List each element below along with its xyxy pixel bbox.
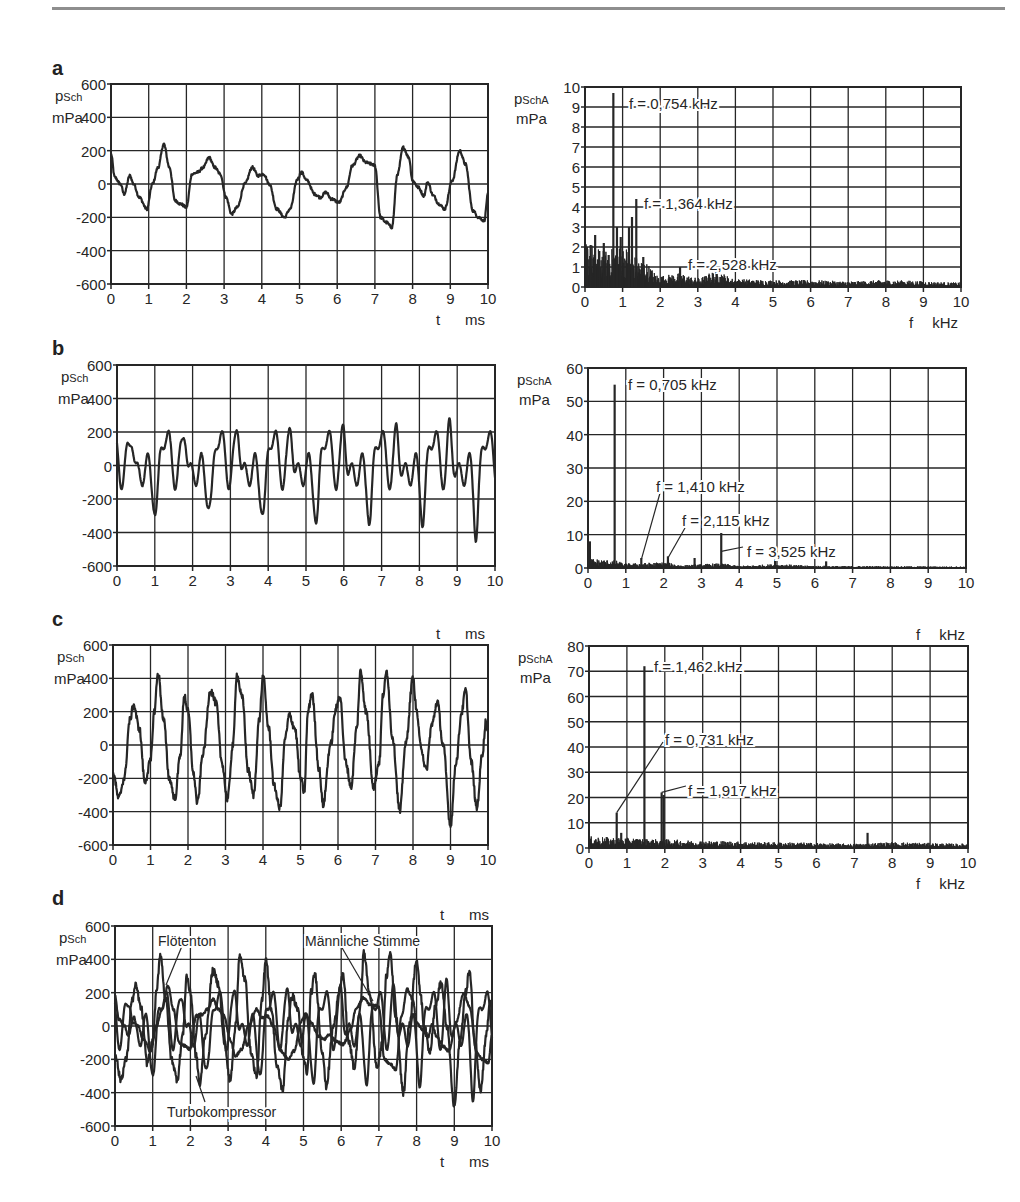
y-tick-label: -600 — [76, 276, 106, 293]
y-tick-label: 60 — [566, 360, 583, 377]
y-tick-label: 400 — [81, 109, 106, 126]
x-tick-label: 2 — [188, 572, 196, 589]
y-tick-label: 200 — [81, 143, 106, 160]
y-tick-label: 0 — [576, 840, 584, 857]
y-tick-label: 80 — [567, 638, 584, 655]
y-tick-label: 30 — [566, 460, 583, 477]
y-tick-label: 400 — [83, 670, 108, 687]
x-tick-label: 6 — [334, 851, 342, 868]
x-tick-label: 4 — [258, 290, 266, 307]
x-axis-label: t — [436, 311, 441, 328]
y-axis-label: pSchA — [517, 371, 552, 388]
peak-annotation: f = 1,410 kHz — [656, 478, 745, 495]
x-tick-label: 5 — [295, 290, 303, 307]
y-axis-label: pSchA — [514, 90, 549, 107]
x-tick-label: 8 — [882, 293, 890, 310]
x-tick-label: 3 — [221, 851, 229, 868]
peak-annotation: f = 0,754 kHz — [629, 95, 718, 112]
x-tick-label: 5 — [773, 574, 781, 591]
x-tick-label: 2 — [186, 1132, 194, 1149]
y-tick-label: -400 — [78, 804, 108, 821]
x-tick-label: 6 — [806, 293, 814, 310]
x-tick-label: 3 — [224, 1132, 232, 1149]
x-tick-label: 0 — [109, 851, 117, 868]
x-tick-label: 8 — [412, 1132, 420, 1149]
y-tick-label: 10 — [563, 79, 580, 96]
x-tick-label: 9 — [446, 290, 454, 307]
y-tick-label: 9 — [572, 99, 580, 116]
chart-c-time: 0123456789106004002000-200-400-600pSchmP… — [54, 625, 496, 868]
y-tick-label: -200 — [78, 770, 108, 787]
y-tick-label: -400 — [80, 1085, 110, 1102]
x-tick-label: 1 — [618, 293, 626, 310]
x-tick-label: 0 — [111, 1132, 119, 1149]
x-tick-label: 7 — [850, 854, 858, 871]
y-axis-unit: mPa — [58, 390, 90, 407]
chart-a-spec: 012345678910109876543210pSchAmPafkHzf = … — [514, 79, 969, 331]
annotation-leader — [617, 742, 663, 813]
x-tick-label: 9 — [450, 1132, 458, 1149]
y-tick-label: 40 — [567, 739, 584, 756]
x-tick-label: 6 — [337, 1132, 345, 1149]
y-tick-label: 600 — [81, 76, 106, 93]
y-tick-label: 7 — [572, 139, 580, 156]
y-tick-label: 10 — [567, 815, 584, 832]
x-tick-label: 5 — [296, 851, 304, 868]
x-axis-unit: kHz — [932, 314, 958, 331]
y-tick-label: 40 — [566, 427, 583, 444]
x-axis-label: f — [916, 875, 921, 892]
y-tick-label: 3 — [572, 219, 580, 236]
x-axis-unit: kHz — [939, 875, 965, 892]
x-tick-label: 0 — [585, 854, 593, 871]
peak-annotation: f = 2,115 kHz — [682, 512, 770, 529]
x-tick-label: 10 — [487, 572, 504, 589]
y-axis-unit: mPa — [516, 110, 548, 127]
x-tick-label: 5 — [774, 854, 782, 871]
y-tick-label: 0 — [104, 458, 112, 475]
y-tick-label: 30 — [567, 764, 584, 781]
y-tick-label: 20 — [566, 493, 583, 510]
y-tick-label: 5 — [572, 179, 580, 196]
peak-annotation: f = 2,528 kHz — [688, 256, 777, 273]
x-axis-unit: ms — [469, 906, 489, 923]
peak-annotation: f = 3,525 kHz — [747, 543, 836, 560]
x-tick-label: 9 — [446, 851, 454, 868]
y-tick-label: 400 — [85, 951, 110, 968]
x-tick-label: 6 — [333, 290, 341, 307]
x-tick-label: 3 — [220, 290, 228, 307]
x-tick-label: 0 — [581, 293, 589, 310]
y-tick-label: 200 — [87, 424, 112, 441]
x-tick-label: 5 — [769, 293, 777, 310]
x-tick-label: 2 — [659, 574, 667, 591]
legend-label: Turbokompressor — [167, 1104, 277, 1120]
x-tick-label: 7 — [371, 851, 379, 868]
x-tick-label: 8 — [409, 851, 417, 868]
x-tick-label: 7 — [375, 1132, 383, 1149]
y-tick-label: -400 — [76, 243, 106, 260]
y-tick-label: -600 — [80, 1118, 110, 1135]
x-tick-label: 1 — [149, 1132, 157, 1149]
y-tick-label: 70 — [567, 663, 584, 680]
y-tick-label: 0 — [575, 560, 583, 577]
peak-annotation: f = 1,462 kHz — [654, 658, 743, 675]
y-tick-label: 20 — [567, 790, 584, 807]
x-tick-label: 3 — [694, 293, 702, 310]
y-tick-label: -600 — [82, 558, 112, 575]
x-tick-label: 10 — [958, 574, 975, 591]
x-tick-label: 4 — [264, 572, 272, 589]
figure-canvas: 0123456789106004002000-200-400-600pSchmP… — [0, 0, 1020, 1202]
y-axis-label: pSch — [61, 368, 88, 385]
annotation-leader — [641, 493, 660, 560]
y-tick-label: -400 — [82, 525, 112, 542]
y-axis-label: pSchA — [518, 649, 553, 666]
y-tick-label: 50 — [567, 714, 584, 731]
x-tick-label: 10 — [953, 293, 970, 310]
x-tick-label: 2 — [184, 851, 192, 868]
x-tick-label: 4 — [262, 1132, 270, 1149]
x-tick-label: 4 — [735, 574, 743, 591]
y-tick-label: 0 — [98, 176, 106, 193]
x-tick-label: 9 — [919, 293, 927, 310]
y-axis-unit: mPa — [56, 951, 88, 968]
x-tick-label: 2 — [182, 290, 190, 307]
y-tick-label: 200 — [83, 704, 108, 721]
